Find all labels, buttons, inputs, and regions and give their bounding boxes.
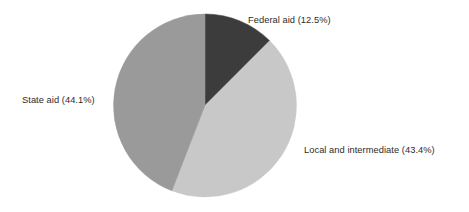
pie-label-state-aid: State aid (44.1%)	[22, 95, 95, 106]
pie-label-local-and-intermediate: Local and intermediate (43.4%)	[304, 145, 435, 156]
pie-chart-figure: Federal aid (12.5%) State aid (44.1%) Lo…	[0, 0, 469, 212]
pie-chart-canvas	[0, 0, 469, 212]
pie-label-federal-aid: Federal aid (12.5%)	[248, 15, 331, 26]
pie-slice-group	[114, 14, 297, 197]
screenshot-root: Federal aid (12.5%) State aid (44.1%) Lo…	[0, 0, 469, 212]
